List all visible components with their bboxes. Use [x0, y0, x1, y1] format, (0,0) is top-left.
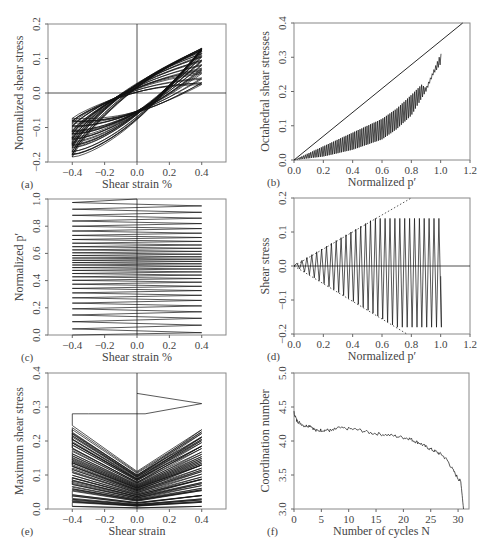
y-tick-label: −0.2: [30, 152, 42, 172]
y-tick-label: 0.0: [30, 502, 42, 516]
panel-label: (f): [267, 525, 278, 538]
y-axis-label: Octahedral shear stresses: [258, 31, 272, 152]
y-tick-label: 0.4: [276, 16, 288, 30]
figure-canvas: −0.4−0.20.00.20.4−0.2−0.10.00.10.2Shear …: [0, 0, 492, 552]
y-tick-label: 0.6: [30, 246, 42, 260]
x-tick-label: 1.2: [463, 164, 477, 176]
y-tick-label: −0.1: [30, 118, 42, 138]
x-axis-label: Shear strain: [109, 524, 166, 538]
y-tick-label: 0.1: [276, 119, 288, 133]
x-tick-label: 1.0: [434, 164, 448, 176]
x-tick-label: −0.4: [62, 513, 82, 525]
y-axis-label: Normalized p′: [12, 232, 26, 301]
y-tick-label: 0.2: [30, 17, 42, 31]
failure-line-extension: [294, 266, 407, 334]
x-tick-label: 1.2: [463, 338, 477, 350]
y-tick-label: 0.2: [276, 191, 288, 205]
chart-panel-e: −0.4−0.20.00.20.40.00.10.20.30.4Shear st…: [12, 366, 226, 538]
x-axis-label: Shear strain %: [102, 350, 172, 364]
y-tick-label: 0.0: [276, 259, 288, 273]
y-tick-label: 0.4: [30, 366, 42, 380]
y-tick-label: 3.5: [276, 468, 288, 482]
chart-panel-a: −0.4−0.20.00.20.4−0.2−0.10.00.10.2Shear …: [12, 17, 226, 191]
y-tick-label: 1.0: [30, 192, 42, 206]
x-tick-label: 0.4: [195, 166, 209, 178]
y-tick-label: 0.3: [276, 50, 288, 64]
y-tick-label: 4.5: [276, 400, 288, 414]
x-axis-label: Normalized p′: [348, 349, 417, 363]
panel-label: (d): [267, 350, 280, 363]
y-tick-label: 0.0: [30, 86, 42, 100]
panel-label: (e): [21, 525, 34, 538]
y-tick-label: 0.4: [30, 273, 42, 287]
y-tick-label: 3.0: [276, 502, 288, 516]
plot-frame: [294, 23, 470, 160]
coordination-number-line: [294, 411, 464, 509]
panel-label: (b): [267, 176, 280, 189]
x-axis-label: Shear strain %: [102, 177, 172, 191]
chart-panel-d: 0.00.20.40.60.81.01.2−0.2−0.10.00.10.2No…: [258, 191, 477, 363]
y-tick-label: 0.0: [30, 328, 42, 342]
x-tick-label: −0.4: [62, 166, 82, 178]
y-tick-label: 0.1: [30, 52, 42, 66]
y-tick-label: 5.0: [276, 366, 288, 380]
y-axis-label: Normalized shear stress: [12, 35, 26, 150]
x-tick-label: 0.0: [287, 164, 301, 176]
y-tick-label: 4.0: [276, 434, 288, 448]
y-tick-label: 0.2: [276, 85, 288, 99]
y-axis-label: Shear stress: [258, 237, 272, 294]
y-tick-label: −0.2: [276, 324, 288, 344]
y-tick-label: 0.2: [30, 301, 42, 315]
x-tick-label: 0.2: [316, 338, 330, 350]
x-tick-label: 0: [291, 513, 297, 525]
x-axis-label: Normalized p′: [348, 175, 417, 189]
x-axis-label: Number of cycles N: [333, 524, 430, 538]
y-axis-label: Coordination number: [258, 390, 272, 493]
y-tick-label: −0.1: [276, 290, 288, 310]
panel-label: (c): [21, 351, 34, 364]
panel-label: (a): [21, 178, 34, 191]
y-axis-label: Maximum shear stress: [12, 387, 26, 495]
x-tick-label: −0.4: [62, 339, 82, 351]
y-tick-label: 0.8: [30, 219, 42, 233]
chart-panel-f: 0510152025303.03.54.04.55.0Number of cyc…: [258, 366, 469, 538]
x-tick-label: 0.2: [316, 164, 330, 176]
stress-path: [294, 54, 441, 160]
x-tick-label: 0.4: [195, 513, 209, 525]
chart-panel-c: −0.4−0.20.00.20.40.00.20.40.60.81.0Shear…: [12, 192, 226, 364]
y-tick-label: 0.0: [276, 153, 288, 167]
y-tick-label: 0.1: [276, 225, 288, 239]
x-tick-label: 0.0: [287, 338, 301, 350]
x-tick-label: 30: [453, 513, 465, 525]
stress-path: [294, 218, 441, 327]
plot-frame: [294, 373, 469, 509]
chart-panel-b: 0.00.20.40.60.81.01.20.00.10.20.30.4Norm…: [258, 16, 477, 189]
x-tick-label: 0.4: [195, 339, 209, 351]
y-tick-label: 0.2: [30, 434, 42, 448]
y-tick-label: 0.1: [30, 468, 42, 482]
x-tick-label: 1.0: [434, 338, 448, 350]
y-tick-label: 0.3: [30, 400, 42, 414]
x-tick-label: 5: [319, 513, 325, 525]
